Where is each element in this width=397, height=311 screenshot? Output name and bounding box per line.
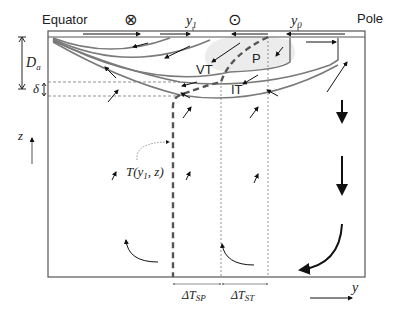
z-axis-label: z bbox=[17, 128, 23, 143]
bottom-return-arrow bbox=[300, 224, 342, 270]
Da-label: Da bbox=[25, 55, 41, 72]
into-page-icon: ⊗ bbox=[124, 11, 137, 28]
ocean-circulation-diagram: Equator Pole ⊗ ⊙ y1 y0 bbox=[0, 0, 397, 311]
arrow-low-2 bbox=[186, 172, 190, 180]
isopycnal-1 bbox=[53, 38, 170, 49]
temperature-pointer bbox=[137, 142, 169, 160]
region-P-label: P bbox=[252, 51, 261, 66]
arrow-upper-2 bbox=[165, 46, 190, 58]
y-axis-label: y bbox=[350, 280, 359, 295]
arrow-low-1 bbox=[112, 172, 116, 180]
delta-label: δ bbox=[33, 81, 40, 96]
arrow-low-3 bbox=[254, 174, 258, 183]
dTST-label: ΔTST bbox=[230, 288, 255, 303]
curved-arrow-left bbox=[126, 240, 158, 262]
region-IT-label: IT bbox=[231, 82, 243, 97]
region-VT-label: VT bbox=[196, 62, 213, 77]
pole-label: Pole bbox=[357, 11, 383, 26]
curved-arrow-middle bbox=[222, 244, 254, 265]
out-of-page-icon: ⊙ bbox=[228, 11, 241, 28]
dTSP-bracket-end-right bbox=[219, 283, 221, 285]
y1-label: y1 bbox=[184, 13, 197, 30]
arrow-mid-2 bbox=[250, 107, 258, 118]
dTSP-bracket-end-left bbox=[173, 283, 175, 285]
arrow-right-upwell bbox=[327, 62, 347, 92]
dTST-bracket-end-left bbox=[222, 283, 224, 285]
equator-label: Equator bbox=[42, 12, 88, 27]
temperature-label: T(y1, z) bbox=[126, 164, 164, 181]
arrow-mid-1 bbox=[183, 107, 191, 118]
dTSP-label: ΔTSP bbox=[181, 288, 206, 303]
temperature-profile-dashed bbox=[173, 37, 268, 277]
dTST-bracket-end-right bbox=[266, 283, 268, 285]
y0-label: y0 bbox=[289, 13, 302, 30]
